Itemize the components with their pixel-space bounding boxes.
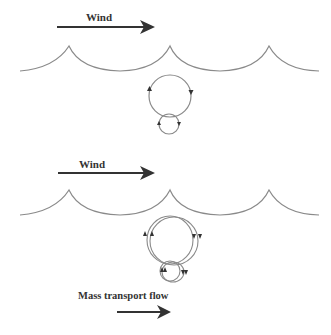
diagram-graphics	[0, 0, 331, 335]
orbit-small-bottom-arrow-r2	[184, 270, 188, 275]
orbit-large-bottom-arrow-r2	[198, 234, 202, 239]
orbit-arrow-right	[189, 90, 194, 95]
orbit-large-bottom-a	[147, 216, 193, 264]
panel-bottom	[20, 166, 319, 319]
orbit-large-bottom-arrow-l1	[143, 231, 147, 236]
orbit-small-arrow-right	[177, 122, 181, 126]
panel-top	[20, 20, 319, 134]
wave-orbital-diagram: Wind Wind Mass transport flow	[0, 0, 331, 335]
orbit-large-bottom-b	[150, 217, 198, 265]
orbit-large-top	[149, 75, 191, 117]
orbit-large-bottom-arrow-l2	[150, 231, 154, 236]
wind-label-bottom: Wind	[79, 158, 105, 170]
mass-transport-label: Mass transport flow	[78, 290, 168, 301]
wind-label-top: Wind	[86, 11, 112, 23]
wave-surface-bottom	[20, 190, 319, 215]
orbit-small-arrow-left	[157, 121, 161, 125]
wave-surface-top	[20, 46, 319, 71]
